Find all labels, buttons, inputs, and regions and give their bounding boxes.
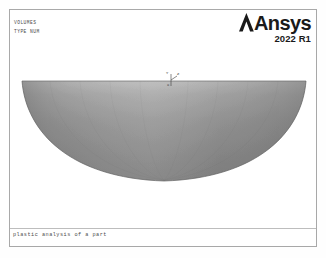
legend-type-num: TYPE NUM (14, 27, 40, 36)
geometry-layer[interactable] (10, 10, 317, 247)
triad-label-z: Z (177, 72, 179, 76)
ansys-branding: Ansys 2022 R1 (239, 13, 311, 44)
legend-entity-type: VOLUMES (14, 18, 40, 27)
volume-plot-svg[interactable] (10, 10, 317, 247)
ansys-graphics-window: VOLUMES TYPE NUM Ansys 2022 R1 Y Z X (0, 0, 326, 258)
triad-label-y: Y (166, 71, 168, 75)
footer-divider (10, 228, 317, 229)
plot-frame: VOLUMES TYPE NUM Ansys 2022 R1 Y Z X (9, 9, 317, 247)
ansys-version-label: 2022 R1 (239, 33, 311, 44)
plot-caption: plastic analysis of a part (13, 232, 107, 238)
ansys-chevron-icon (239, 13, 254, 32)
coordinate-triad: Y Z X (162, 71, 188, 89)
triad-label-x: X (167, 83, 169, 87)
volume-shading-overlay (22, 81, 306, 181)
ansys-logo: Ansys (239, 13, 311, 32)
legend-block: VOLUMES TYPE NUM (14, 18, 40, 36)
ansys-wordmark: Ansys (254, 14, 311, 32)
